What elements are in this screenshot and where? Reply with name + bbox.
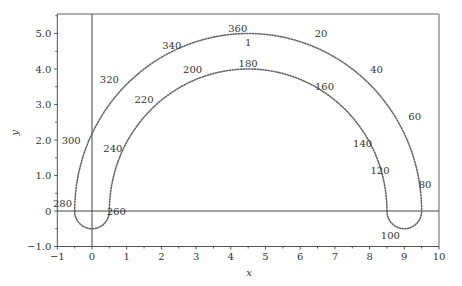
x-tick-label: 6 [297, 251, 303, 262]
y-tick-label: 0 [45, 206, 51, 217]
right-loop [387, 211, 422, 229]
angle-label: 280 [53, 198, 72, 209]
x-axis-label: x [246, 267, 252, 278]
x-tick-label: −1 [50, 251, 65, 262]
y-tick-label: 3.0 [35, 99, 51, 110]
angle-label: 100 [381, 230, 400, 241]
x-tick-label: 4 [228, 251, 234, 262]
y-tick-label: 4.0 [35, 64, 51, 75]
angle-label: 340 [162, 40, 181, 51]
x-tick-label: 10 [433, 251, 446, 262]
angle-label: 260 [107, 206, 126, 217]
angle-labels: 3601204060801001201401601802002202402602… [53, 23, 432, 242]
angle-label: 320 [100, 74, 119, 85]
y-axis-label: y [9, 130, 20, 137]
x-axis-ticks: −1012345678910 [50, 247, 445, 262]
angle-label: 1 [245, 37, 251, 48]
y-axis-ticks: −1.001.02.03.04.05.0 [27, 16, 57, 252]
inner-arc [109, 69, 387, 211]
y-tick-label: 5.0 [35, 28, 51, 39]
x-tick-label: 3 [193, 251, 199, 262]
angle-label: 240 [103, 143, 122, 154]
angle-label: 180 [239, 58, 258, 69]
x-tick-label: 9 [401, 251, 407, 262]
angle-label: 200 [183, 64, 202, 75]
angle-label: 140 [353, 138, 372, 149]
angle-label: 360 [228, 23, 247, 34]
x-tick-label: 2 [158, 251, 164, 262]
angle-label: 60 [408, 111, 421, 122]
angle-label: 120 [370, 165, 389, 176]
x-tick-label: 1 [124, 251, 130, 262]
angle-label: 220 [135, 94, 154, 105]
y-tick-label: −1.0 [27, 241, 51, 252]
angle-label: 80 [419, 179, 432, 190]
x-tick-label: 0 [89, 251, 95, 262]
angle-label: 160 [315, 81, 334, 92]
chart: −1012345678910 −1.001.02.03.04.05.0 3601… [0, 0, 462, 286]
angle-label: 300 [62, 135, 81, 146]
angle-label: 40 [370, 64, 383, 75]
angle-label: 20 [315, 28, 328, 39]
y-tick-label: 1.0 [35, 170, 51, 181]
y-tick-label: 2.0 [35, 135, 51, 146]
x-tick-label: 5 [262, 251, 268, 262]
x-tick-label: 8 [366, 251, 372, 262]
x-tick-label: 7 [332, 251, 338, 262]
